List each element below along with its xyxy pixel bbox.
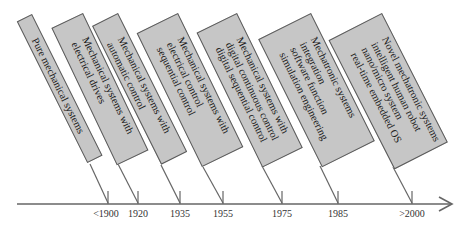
stem-arrow-6 (320, 166, 338, 204)
year-label: >2000 (399, 208, 425, 219)
stem-arrow-4 (203, 167, 223, 204)
year-label: <1900 (93, 208, 119, 219)
stem-arrow-3 (161, 165, 180, 204)
stem-arrow-5 (262, 166, 282, 204)
timeline-diagram: Pure mechanical systems Mechanical syste… (0, 0, 465, 229)
year-label: 1935 (170, 208, 190, 219)
year-label: 1975 (272, 208, 292, 219)
year-label: 1985 (328, 208, 348, 219)
stem-arrow-2 (118, 164, 138, 204)
stem-arrow-1 (90, 164, 108, 204)
stem-arrow-7 (393, 167, 412, 204)
year-label: 1920 (128, 208, 148, 219)
year-label: 1955 (213, 208, 233, 219)
